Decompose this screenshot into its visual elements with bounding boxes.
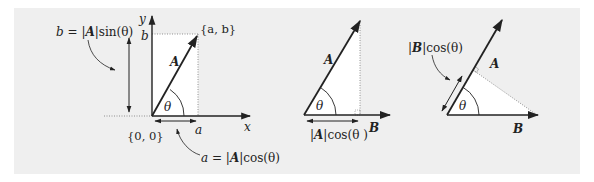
vector-a-label: A	[169, 55, 179, 69]
projection-formula: |B|cos(θ)	[408, 41, 463, 55]
a-formula-rhs: cos(θ)	[243, 151, 280, 165]
b-formula-vector: A	[84, 25, 94, 39]
theta-label: θ	[164, 100, 172, 114]
panel-projection-a-on-b: A B θ |A|cos(θ )	[304, 20, 390, 142]
projection-formula-vector: B	[411, 41, 422, 55]
origin-label: {0, 0}	[127, 129, 164, 143]
b-tick-label: b	[141, 29, 149, 43]
a-formula-lhs: a =	[201, 151, 226, 165]
a-formula: a = |A|cos(θ)	[201, 151, 280, 165]
vector-a-label: A	[489, 57, 499, 71]
y-axis-label: y	[138, 12, 146, 26]
b-pointer-arrow	[88, 40, 115, 70]
vector-b-label: B	[512, 122, 523, 136]
theta-label: θ	[316, 99, 324, 113]
b-formula-rhs: sin(θ)	[99, 25, 133, 39]
a-tick-label: a	[195, 123, 202, 137]
a-formula-vector: A	[229, 151, 239, 165]
vector-a-label: A	[323, 53, 333, 67]
point-label: {a, b}	[200, 22, 236, 36]
projection-formula-vector: A	[313, 128, 323, 142]
vector-b-label: B	[368, 121, 379, 135]
panel-components: y x b a {a, b} A θ {0, 0} b = |A|sin(θ) …	[56, 12, 280, 165]
b-formula-lhs: b =	[56, 25, 81, 39]
x-axis-label: x	[244, 120, 251, 134]
theta-label: θ	[459, 99, 467, 113]
vector-projection-diagram: y x b a {a, b} A θ {0, 0} b = |A|sin(θ) …	[0, 0, 594, 182]
projection-formula-rhs: cos(θ)	[426, 41, 463, 55]
projection-formula-rhs: cos(θ )	[327, 128, 368, 142]
projection-formula: |A|cos(θ )	[310, 128, 368, 142]
b-formula: b = |A|sin(θ)	[56, 25, 133, 39]
projection-pointer-arrow	[432, 55, 450, 80]
panel-projection-b-on-a: A B θ |B|cos(θ)	[408, 20, 538, 136]
